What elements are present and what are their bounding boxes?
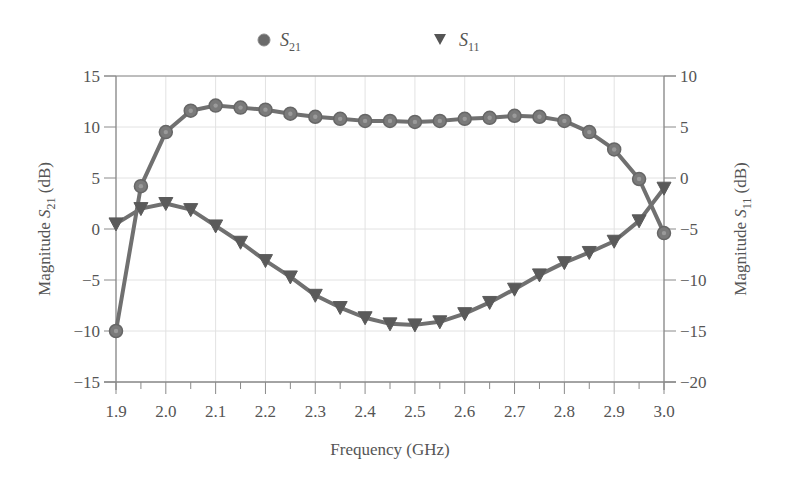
left-y-axis-title: Magnitude S21 (dB) (35, 162, 58, 296)
legend-item-s11: S11 (434, 30, 480, 54)
legend: S21 S11 (258, 30, 480, 54)
marker-center (562, 119, 566, 123)
marker-center (438, 119, 442, 123)
legend-item-s21: S21 (258, 30, 301, 54)
marker-center (612, 147, 616, 151)
right-y-tick-label: 0 (680, 169, 689, 188)
series-line (116, 188, 664, 325)
x-tick-label: 1.9 (105, 402, 126, 421)
series-s11 (109, 182, 671, 332)
right-y-tick-label: −15 (680, 322, 707, 341)
right-y-tick-label: 5 (680, 118, 689, 137)
marker-center (139, 184, 143, 188)
left-y-tick-label: 0 (92, 220, 101, 239)
right-y-tick-label: −10 (680, 271, 707, 290)
marker-center (288, 112, 292, 116)
marker-center (238, 105, 242, 109)
x-tick-label: 2.2 (255, 402, 276, 421)
left-y-tick-label: 10 (83, 118, 100, 137)
left-y-tick-label: −15 (73, 373, 100, 392)
marker-center (388, 119, 392, 123)
marker-center (213, 103, 217, 107)
marker-center (662, 231, 666, 235)
marker-center (512, 114, 516, 118)
x-tick-label: 2.8 (554, 402, 575, 421)
right-y-axis-title: Magnitude S11 (dB) (731, 162, 754, 295)
marker-center (637, 177, 641, 181)
series-line (116, 106, 664, 331)
right-y-tick-label: 10 (680, 67, 697, 86)
x-tick-label: 2.9 (604, 402, 625, 421)
x-tick-label: 2.7 (504, 402, 526, 421)
x-tick-label: 2.3 (305, 402, 326, 421)
left-y-tick-label: 15 (83, 67, 100, 86)
marker-center (164, 130, 168, 134)
triangle-down-marker-icon (434, 34, 446, 45)
x-tick-label: 2.6 (454, 402, 475, 421)
left-y-tick-label: 5 (92, 169, 101, 188)
svg-text:S11: S11 (459, 30, 480, 54)
chart: 1.92.02.12.22.32.42.52.62.72.82.93.0 151… (0, 0, 787, 483)
marker-center (114, 329, 118, 333)
x-tick-label: 2.5 (404, 402, 425, 421)
series-s21 (110, 99, 671, 337)
right-y-axis-ticks: 1050−5−10−15−20 (664, 67, 707, 392)
marker-center (587, 130, 591, 134)
svg-text:S21: S21 (280, 30, 301, 54)
legend-s11-main: S (459, 30, 468, 50)
marker-center (263, 107, 267, 111)
marker-center (487, 116, 491, 120)
marker-center (537, 115, 541, 119)
x-axis-ticks: 1.92.02.12.22.32.42.52.62.72.82.93.0 (105, 382, 674, 421)
x-tick-label: 2.4 (354, 402, 376, 421)
left-y-tick-label: −5 (82, 271, 100, 290)
marker-center (463, 117, 467, 121)
legend-s11-sub: 11 (468, 40, 480, 54)
left-y-axis-ticks: 151050−5−10−15 (73, 67, 116, 392)
marker-center (363, 119, 367, 123)
marker-center (189, 108, 193, 112)
right-y-tick-label: −20 (680, 373, 707, 392)
legend-s21-sub: 21 (289, 40, 301, 54)
legend-s21-main: S (280, 30, 289, 50)
x-tick-label: 2.0 (155, 402, 176, 421)
marker-center (313, 115, 317, 119)
circle-marker-icon (258, 34, 270, 46)
left-y-tick-label: −10 (73, 322, 100, 341)
right-y-tick-label: −5 (680, 220, 698, 239)
marker-center (413, 120, 417, 124)
x-tick-label: 2.1 (205, 402, 226, 421)
x-tick-label: 3.0 (653, 402, 674, 421)
x-axis-title: Frequency (GHz) (330, 440, 449, 459)
marker-center (338, 117, 342, 121)
